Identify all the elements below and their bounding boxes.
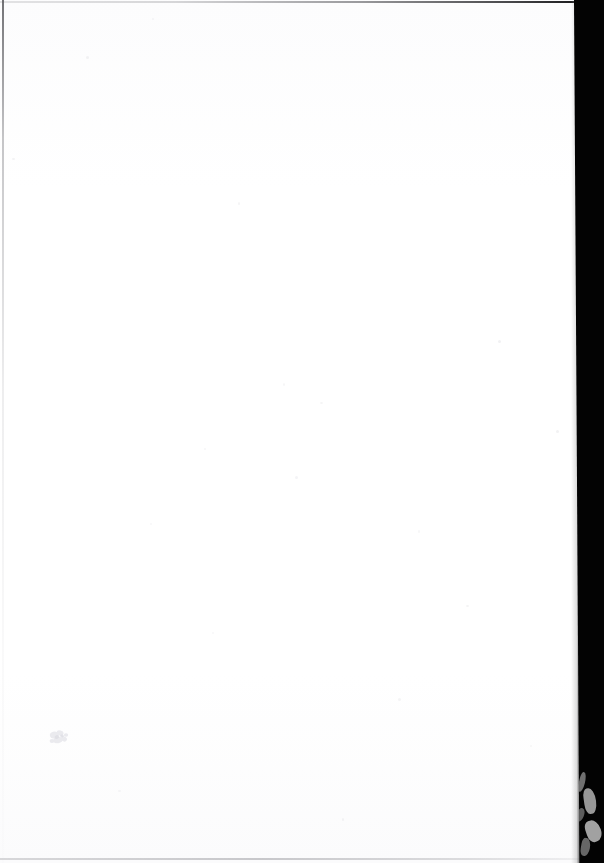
page-edge-left (2, 0, 4, 863)
scan-grain-speckle (0, 0, 582, 863)
page-edge-top (0, 1, 582, 3)
page-edge-bottom (0, 858, 582, 860)
scanned-document-page (0, 0, 604, 863)
ink-smudge-mark (48, 728, 72, 748)
paper-sheet (0, 0, 582, 863)
paper-tone-gradient (0, 0, 582, 863)
